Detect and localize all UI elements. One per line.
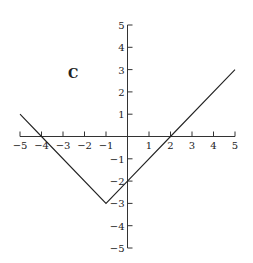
axes — [20, 25, 235, 248]
x-tick-label: −1 — [99, 140, 114, 151]
x-tick-label: 3 — [189, 140, 195, 151]
y-tick-label: −1 — [110, 154, 125, 165]
y-tick-label: −2 — [110, 176, 125, 187]
y-tick-label: 4 — [118, 42, 124, 53]
x-tick-label: 1 — [146, 140, 152, 151]
x-tick-label: 4 — [210, 140, 216, 151]
function-graph: −5−4−3−2−112345−5−4−3−2−112345 C — [0, 0, 253, 263]
y-tick-label: 5 — [118, 20, 124, 31]
y-tick-label: 3 — [118, 65, 124, 76]
y-tick-label: 1 — [118, 109, 124, 120]
y-tick-label: 2 — [118, 87, 124, 98]
y-tick-label: −4 — [110, 221, 125, 232]
x-tick-label: −3 — [56, 140, 71, 151]
x-tick-label: 2 — [167, 140, 173, 151]
panel-label: C — [68, 66, 78, 81]
y-tick-label: −3 — [110, 198, 125, 209]
x-tick-label: −5 — [13, 140, 28, 151]
x-tick-label: −2 — [77, 140, 92, 151]
y-tick-label: −5 — [110, 243, 125, 254]
x-tick-label: 5 — [232, 140, 238, 151]
